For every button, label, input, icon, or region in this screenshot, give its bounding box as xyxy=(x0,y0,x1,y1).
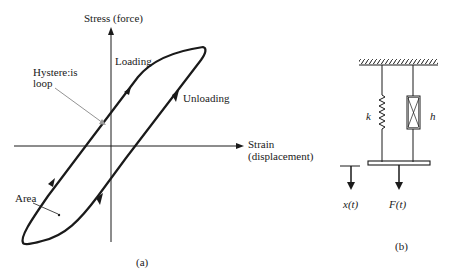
force-arrow-icon xyxy=(395,165,403,190)
x-axis-label-line1: Strain xyxy=(248,138,274,150)
stress-axis xyxy=(108,27,114,242)
loading-label: Loading xyxy=(115,55,152,67)
hysteresis-label-line2: loop xyxy=(33,77,53,89)
displacement-label: x(t) xyxy=(343,198,358,210)
unloading-label: Unloading xyxy=(183,92,229,104)
mass-plate xyxy=(368,161,430,165)
damper-label: h xyxy=(430,110,436,122)
hysteresis-pointer xyxy=(55,88,103,123)
strain-axis xyxy=(14,143,244,149)
displacement-arrow-icon xyxy=(340,166,360,190)
y-axis-label: Stress (force) xyxy=(84,12,143,24)
fixed-support xyxy=(359,59,438,65)
spring-element xyxy=(379,65,385,162)
area-label: Area xyxy=(15,192,36,204)
x-axis-label-line2: (displacement) xyxy=(248,150,313,162)
caption-a: (a) xyxy=(136,256,148,268)
loading-arrow-lower-icon xyxy=(48,178,55,187)
caption-b: (b) xyxy=(395,240,408,252)
damper-element xyxy=(407,65,420,162)
area-point-icon xyxy=(58,214,60,216)
figure-canvas xyxy=(0,0,450,279)
force-label: F(t) xyxy=(389,198,406,210)
spring-label: k xyxy=(366,110,371,122)
